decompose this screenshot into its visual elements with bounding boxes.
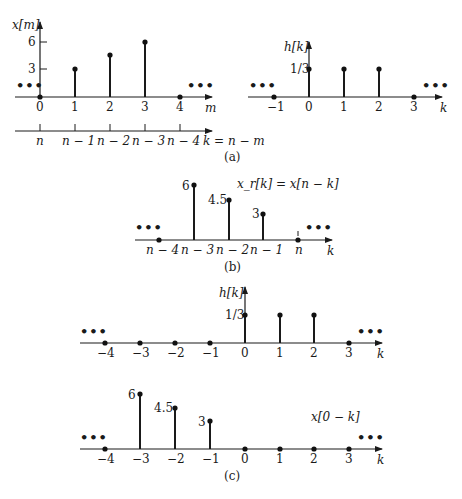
ellipsis-right: •••	[357, 324, 385, 339]
k-tick: 2	[310, 452, 318, 466]
ellipsis-left: •••	[249, 78, 277, 93]
m-tick: 3	[141, 100, 149, 114]
k-tick: 3	[345, 452, 353, 466]
k-tick: 1	[276, 452, 284, 466]
k-relation-label: k = n − m	[203, 134, 265, 148]
value-label-3: 3	[252, 207, 260, 221]
k-tick: −4	[97, 346, 115, 360]
caption-a: (a)	[224, 150, 241, 164]
k-tick: 1	[340, 100, 348, 114]
value-label-4-5: 4.5	[208, 193, 227, 207]
ellipsis-left: •••	[80, 430, 108, 445]
h-tick-1-3: 1/3	[225, 308, 244, 322]
ellipsis-right: •••	[422, 78, 450, 93]
k-tick: −3	[132, 346, 150, 360]
ellipsis-right: •••	[357, 430, 385, 445]
panel-c-h-plot: h[k] 1/3 ••• ••• −4 −3 −2 −1 0 1 2 3 k	[80, 286, 385, 361]
value-label-4-5: 4.5	[154, 401, 173, 415]
m-tick: 4	[176, 100, 184, 114]
b-title: x_r[k] = x[n − k]	[237, 177, 339, 191]
ellipsis-right: •••	[305, 220, 333, 235]
k-tick: −1	[202, 452, 220, 466]
panel-a-x-plot: x[m] 6 3 ••• ••• 0 1 2 3 4 m n n − 1 n −…	[12, 18, 265, 164]
k-tick: 0	[305, 100, 313, 114]
ellipsis-left: •••	[16, 78, 44, 93]
x-reversed-title: x[0 − k]	[311, 410, 360, 424]
k-tick: −1	[202, 346, 220, 360]
kn-tick: n − 4	[167, 134, 200, 148]
k-tick: −2	[167, 452, 185, 466]
y-tick-6: 6	[28, 35, 36, 49]
h-axis-title: h[k]	[219, 286, 244, 300]
k-tick: −2	[167, 346, 185, 360]
caption-c: (c)	[224, 469, 240, 483]
panel-b-plot: x_r[k] = x[n − k] ••• ••• 6 4.5 3 n − 4 …	[135, 177, 339, 274]
k-tick: 1	[276, 346, 284, 360]
panel-c-x-plot: x[0 − k] ••• ••• 6 4.5 3 −4 −3 −2 −1 0 1…	[80, 388, 385, 483]
k-tick: n − 4	[146, 243, 179, 257]
k-axis-label: k	[377, 347, 384, 361]
kn-tick: n − 3	[132, 134, 165, 148]
k-tick: −3	[132, 452, 150, 466]
caption-b: (b)	[224, 260, 241, 274]
m-tick: 2	[106, 100, 114, 114]
value-label-6: 6	[182, 179, 190, 193]
panel-a-h-plot: h[k] 1/3 ••• ••• −1 0 1 2 3 k	[248, 40, 450, 115]
k-axis-label: k	[440, 101, 447, 115]
ellipsis-left: •••	[135, 220, 163, 235]
k-tick: n − 2	[216, 243, 249, 257]
kn-tick: n − 1	[62, 134, 95, 148]
convolution-figure: x[m] 6 3 ••• ••• 0 1 2 3 4 m n n − 1 n −…	[0, 0, 462, 499]
k-tick: n − 3	[181, 243, 214, 257]
kn-tick: n	[36, 134, 44, 148]
value-label-3: 3	[198, 415, 206, 429]
k-tick: 3	[345, 346, 353, 360]
m-tick: 1	[71, 100, 79, 114]
m-tick: 0	[36, 100, 44, 114]
h-axis-title: h[k]	[284, 40, 309, 54]
m-axis-label: m	[205, 101, 216, 115]
k-tick: 0	[241, 346, 249, 360]
x-axis-title: x[m]	[12, 18, 40, 32]
k-tick: −1	[267, 100, 285, 114]
k-axis-label: k	[377, 453, 384, 467]
kn-tick: n − 2	[97, 134, 130, 148]
k-tick: 0	[241, 452, 249, 466]
k-axis-label: k	[327, 244, 334, 258]
ellipsis-right: •••	[187, 78, 215, 93]
y-tick-3: 3	[28, 62, 36, 76]
k-tick: 2	[375, 100, 383, 114]
k-tick: n − 1	[250, 243, 283, 257]
k-tick: n	[295, 243, 303, 257]
value-label-6: 6	[128, 388, 136, 402]
k-tick: 2	[310, 346, 318, 360]
ellipsis-left: •••	[80, 324, 108, 339]
k-tick: 3	[410, 100, 418, 114]
k-tick: −4	[97, 452, 115, 466]
